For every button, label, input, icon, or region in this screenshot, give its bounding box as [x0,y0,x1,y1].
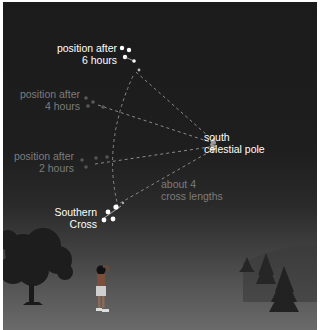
arrow-icon [95,146,216,164]
cross-4-hours [84,96,105,109]
label-cross-lengths: about 4 cross lengths [161,178,223,202]
label-position-2-hours: position after 2 hours [14,150,74,174]
cross-6-hours [120,46,141,72]
person-icon [96,266,109,313]
tree-icon [3,228,73,305]
arrow-icon [98,105,216,144]
label-south-celestial-pole: south celestial pole [204,131,265,155]
label-position-6-hours: position after 6 hours [57,42,117,66]
label-southern-cross: Southern Cross [54,206,97,230]
southern-cross [102,202,125,223]
diagram-canvas: position after 6 hours position after 4 … [3,2,317,330]
label-position-4-hours: position after 4 hours [20,88,80,112]
cross-2-hours [80,155,109,169]
arc-path [113,76,133,202]
